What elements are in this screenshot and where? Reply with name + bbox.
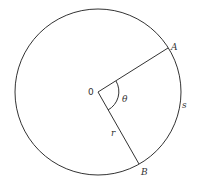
circle-diagram: 0 A B θ r s: [0, 0, 205, 187]
center-label: 0: [88, 87, 94, 97]
angle-arc: [108, 81, 119, 110]
theta-label: θ: [122, 94, 128, 104]
point-b-label: B: [140, 167, 148, 177]
radius-oa: [98, 48, 168, 92]
arc-length-label: s: [182, 100, 187, 110]
radius-ob: [98, 92, 139, 164]
point-a-label: A: [170, 42, 178, 52]
radius-label: r: [111, 128, 116, 138]
